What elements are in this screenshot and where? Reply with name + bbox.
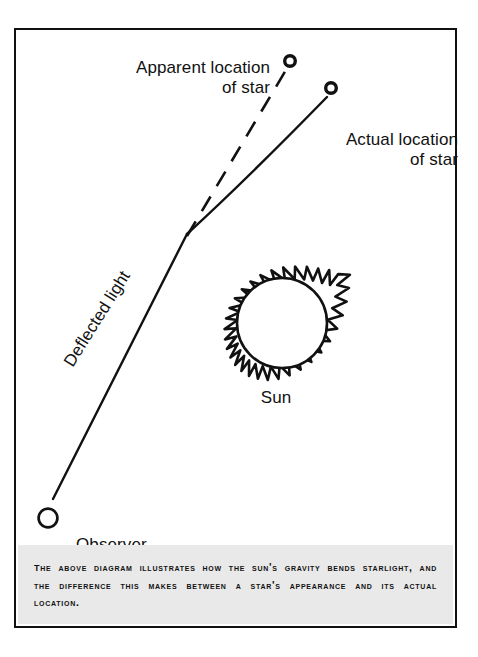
sun-label: Sun <box>236 388 316 408</box>
deflected-light-ray-upper <box>187 97 327 234</box>
actual-star-marker-icon <box>326 83 337 94</box>
observer-marker-icon <box>39 509 58 528</box>
actual-star-label: Actual location of star <box>316 130 458 170</box>
caption-text: The above diagram illustrates how the su… <box>34 556 437 611</box>
sun-disc-icon <box>237 278 327 368</box>
physics-diagram <box>16 30 459 565</box>
apparent-star-marker-icon <box>285 56 296 67</box>
apparent-star-label: Apparent location of star <box>104 58 270 98</box>
figure-frame: Apparent location of star Actual locatio… <box>14 28 457 628</box>
figure-root: Apparent location of star Actual locatio… <box>0 0 478 657</box>
caption-band: The above diagram illustrates how the su… <box>18 545 453 624</box>
